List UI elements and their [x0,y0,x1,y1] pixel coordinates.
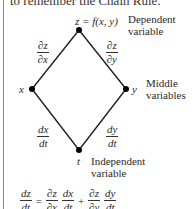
edge-fraction-dx-dt: dx dt [37,124,49,149]
formula-term1-derivative: dx dt [62,188,74,209]
node-t [76,147,82,153]
formula-term1-partial: ∂z ∂x [46,188,58,209]
plus-sign: + [78,195,84,207]
middle-annotation-line1: Middle [146,77,178,89]
node-x-label: x [19,83,24,95]
independent-annotation-line2: variable [91,167,126,179]
chain-rule-formula: dz dt = ∂z ∂x dx dt + ∂z ∂y dy dt [20,188,116,209]
middle-annotation-line2: variables [146,89,186,101]
edge-fraction-dz-dy: ∂z ∂y [106,40,118,65]
edge-fraction-dz-dx: ∂z ∂x [37,40,49,65]
edge-z-y [79,30,126,89]
dependent-annotation-line2: variable [128,25,163,37]
node-y-label: y [132,83,137,95]
equals-sign: = [36,195,42,207]
node-z [76,27,82,33]
formula-lhs: dz dt [20,188,32,209]
node-t-label: t [77,155,80,167]
node-x [29,86,35,92]
formula-term2-derivative: dy dt [104,188,116,209]
node-y [123,86,129,92]
formula-term2-partial: ∂z ∂y [88,188,100,209]
independent-annotation-line1: Independent [91,155,145,167]
node-z-label: z = f(x, y) [75,15,118,27]
edge-fraction-dy-dt: dy dt [106,124,118,149]
edge-y-t [79,89,126,150]
dependent-annotation-line1: Dependent [128,13,176,25]
